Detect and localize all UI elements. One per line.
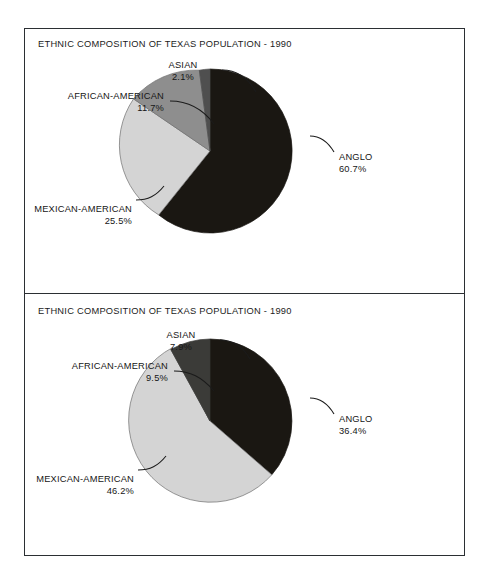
- label-african-american-top-name: AFRICAN-AMERICAN: [30, 91, 164, 103]
- label-african-american-bottom-pct: 9.5%: [34, 373, 168, 385]
- pie-chart-bottom: [120, 331, 300, 511]
- leader-anglo-top: [310, 136, 334, 152]
- label-anglo-top: ANGLO 60.7%: [339, 152, 449, 175]
- label-asian-bottom-pct: 7.9%: [146, 342, 216, 354]
- label-anglo-top-name: ANGLO: [339, 152, 449, 164]
- label-asian-top-name: ASIAN: [148, 60, 218, 72]
- label-anglo-bottom: ANGLO 36.4%: [339, 414, 449, 437]
- chart-title-top: ETHNIC COMPOSITION OF TEXAS POPULATION -…: [38, 39, 292, 49]
- page-canvas: ETHNIC COMPOSITION OF TEXAS POPULATION -…: [0, 0, 489, 578]
- label-mexican-american-bottom: MEXICAN-AMERICAN 46.2%: [0, 474, 134, 497]
- label-african-american-top: AFRICAN-AMERICAN 11.7%: [30, 91, 164, 114]
- label-anglo-bottom-pct: 36.4%: [339, 426, 449, 438]
- label-african-american-bottom-name: AFRICAN-AMERICAN: [34, 361, 168, 373]
- chart-panel-bottom: ETHNIC COMPOSITION OF TEXAS POPULATION -…: [24, 294, 465, 556]
- label-mexican-american-bottom-name: MEXICAN-AMERICAN: [0, 474, 134, 486]
- label-mexican-american-bottom-pct: 46.2%: [0, 486, 134, 498]
- label-anglo-top-pct: 60.7%: [339, 164, 449, 176]
- label-asian-bottom-name: ASIAN: [146, 330, 216, 342]
- label-mexican-american-top: MEXICAN-AMERICAN 25.5%: [0, 204, 132, 227]
- label-african-american-bottom: AFRICAN-AMERICAN 9.5%: [34, 361, 168, 384]
- chart-panel-top: ETHNIC COMPOSITION OF TEXAS POPULATION -…: [24, 28, 465, 293]
- label-anglo-bottom-name: ANGLO: [339, 414, 449, 426]
- label-asian-top: ASIAN 2.1%: [148, 60, 218, 83]
- label-mexican-american-top-name: MEXICAN-AMERICAN: [0, 204, 132, 216]
- leader-anglo-bottom: [310, 398, 334, 414]
- label-asian-bottom: ASIAN 7.9%: [146, 330, 216, 353]
- chart-title-bottom: ETHNIC COMPOSITION OF TEXAS POPULATION -…: [38, 306, 292, 316]
- label-asian-top-pct: 2.1%: [148, 72, 218, 84]
- label-mexican-american-top-pct: 25.5%: [0, 216, 132, 228]
- pie-chart-top: [120, 61, 300, 241]
- label-african-american-top-pct: 11.7%: [30, 103, 164, 115]
